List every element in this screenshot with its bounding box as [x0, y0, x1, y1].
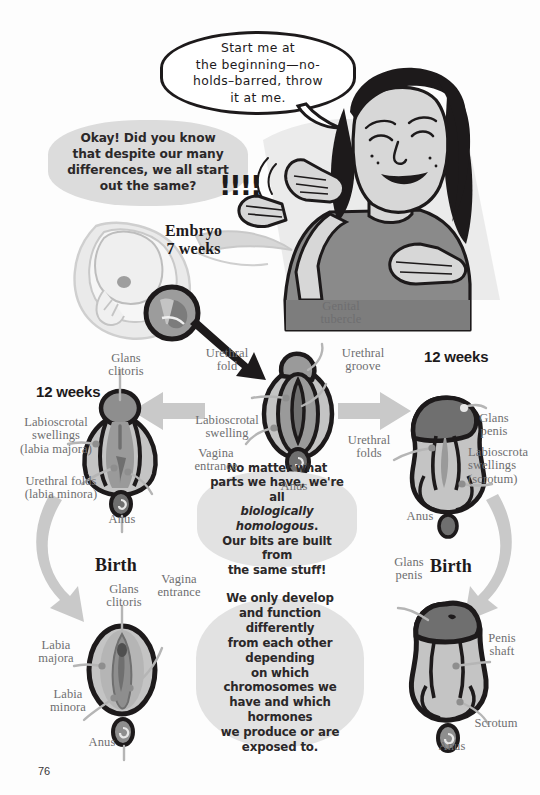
label-glans-penis-birth: Glans penis	[382, 556, 436, 583]
female-birth-stage-label: Birth	[95, 555, 137, 576]
character-speech-bubble: Start me at the beginning—no- holds–barr…	[160, 31, 356, 115]
label-urethral-folds-12w: Urethral folds (labia minora)	[10, 475, 112, 502]
label-scrotum: Scrotum	[466, 717, 526, 730]
narrator-speech-bubble: Okay! Did you know that despite our many…	[48, 120, 248, 206]
label-anus-female-12w: Anus	[100, 513, 144, 526]
label-genital-tubercle: Genital tubercle	[302, 300, 380, 327]
label-urethral-fold: Urethral fold	[196, 347, 258, 374]
label-vagina-entrance-center: Vagina entrance	[185, 447, 247, 474]
label-labioscrotal-swellings-12w: Labioscrotal swellings (labia majora)	[8, 416, 104, 456]
homologous-line-5: the same stuff!	[228, 563, 326, 577]
label-anus-male-birth: Anus	[430, 740, 474, 753]
label-anus-center: Anus	[272, 480, 316, 493]
speech-bubble-tail	[296, 104, 342, 130]
label-labioscrotal-swelling: Labioscrotal swelling	[186, 414, 268, 441]
comic-page: Start me at the beginning—no- holds–barr…	[0, 0, 540, 795]
info-box-develop: We only develop and function differently…	[196, 599, 364, 747]
label-glans-penis-12w: Glans penis	[466, 412, 522, 439]
character-speech-text: Start me at the beginning—no- holds–barr…	[163, 34, 353, 112]
homologous-emphasis: biologically homologous	[236, 504, 314, 533]
male-12weeks-stage-label: 12 weeks	[424, 348, 488, 365]
label-anus-female-birth: Anus	[80, 736, 124, 749]
female-12weeks-stage-label: 12 weeks	[36, 383, 100, 400]
homologous-emphasis-tail: .	[314, 519, 318, 533]
label-urethral-folds-male-12w: Urethral folds	[338, 434, 400, 461]
label-urethral-groove: Urethral groove	[330, 347, 396, 374]
label-glans-clitoris-12w: Glans clitoris	[98, 352, 154, 379]
embryo-stage-label: Embryo 7 weeks	[165, 222, 222, 258]
label-glans-clitoris-birth: Glans clitoris	[96, 583, 152, 610]
homologous-line-4: Our bits are built from	[222, 534, 331, 563]
exclamation-marks: !!!!	[219, 170, 260, 201]
label-vagina-entrance-birth: Vagina entrance	[148, 573, 210, 600]
narrator-speech-text: Okay! Did you know that despite our many…	[48, 120, 248, 206]
label-labioscrotal-swellings-male-12w: Labioscrota swellings (scrotum)	[468, 446, 540, 486]
label-labia-majora: Labia majora	[32, 639, 80, 666]
label-labia-minora: Labia minora	[44, 688, 92, 715]
info-box-develop-text: We only develop and function differently…	[196, 591, 364, 754]
male-birth-stage-label: Birth	[430, 556, 472, 577]
info-box-homologous-text: No matter what parts we have, we're all …	[197, 461, 357, 578]
label-penis-shaft: Penis shaft	[478, 632, 526, 659]
magnifier-lens	[146, 287, 198, 339]
label-anus-male-12w: Anus	[398, 510, 442, 523]
